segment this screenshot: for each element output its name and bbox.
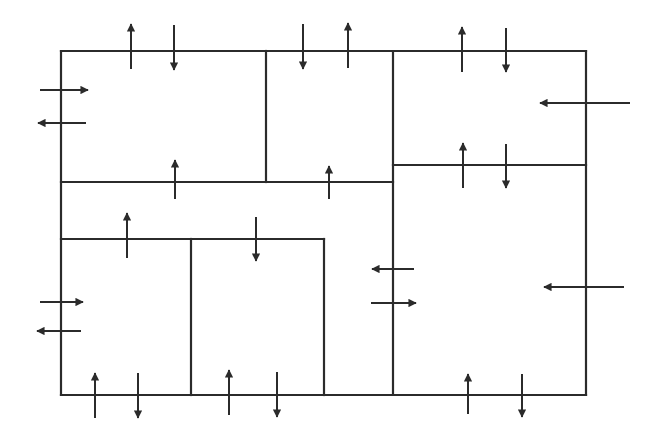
arrows-group — [37, 23, 630, 418]
floor-plan-diagram — [0, 0, 658, 440]
walls-group — [61, 51, 586, 395]
